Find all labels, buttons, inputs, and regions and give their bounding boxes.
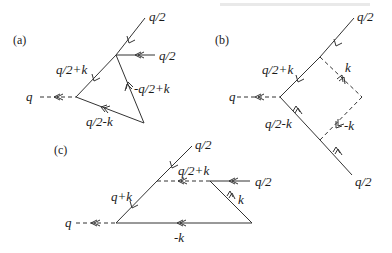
arrow-icon xyxy=(92,74,100,81)
label-q2pk-c: q/2+k xyxy=(178,163,209,178)
arrow-icon xyxy=(339,77,345,84)
label-q-b: q xyxy=(229,89,236,104)
label-q2-horizontal-c: q/2 xyxy=(255,174,272,189)
arrow-icon xyxy=(295,108,302,114)
label-q2-top-c: q/2 xyxy=(195,137,212,152)
panel-label-c: (c) xyxy=(54,143,67,157)
line-mk-b xyxy=(320,97,362,140)
label-qpk-c: q+k xyxy=(111,189,132,204)
label-q2-top-b: q/2 xyxy=(357,9,374,24)
bleed-through-text xyxy=(220,3,370,6)
panel-a: (a) q q/2 q/2 q/2+k -q/2+k q/2-k xyxy=(13,9,176,129)
label-q-c: q xyxy=(65,215,72,230)
line-k-b xyxy=(320,57,362,97)
label-q2pk-a: q/2+k xyxy=(56,62,87,77)
line-k-c xyxy=(210,181,252,223)
line-q2-bottom-b xyxy=(320,140,352,175)
label-q2-horizontal-a: q/2 xyxy=(159,48,176,63)
label-mk-b: -k xyxy=(344,118,354,133)
feynman-diagram-figure: (a) q q/2 q/2 q/2+k -q/2+k q/2-k (b) xyxy=(0,0,392,253)
label-k-b: k xyxy=(345,60,351,75)
panel-label-a: (a) xyxy=(13,33,26,47)
label-q2mk-a: q/2-k xyxy=(86,114,113,129)
panel-label-b: (b) xyxy=(215,33,229,47)
panel-c: (c) q q/2 q/2+k q/2 q+k k -k xyxy=(54,137,272,245)
label-q2pk-b: q/2+k xyxy=(262,62,293,77)
panel-b: (b) q q/2 q/2+k k -k q/2-k q/2 xyxy=(215,9,374,189)
label-q2mk-b: q/2-k xyxy=(265,116,292,131)
label-mk-c: -k xyxy=(174,230,184,245)
arrow-icon xyxy=(296,75,304,82)
label-q2-top-a: q/2 xyxy=(149,9,166,24)
label-q-a: q xyxy=(26,89,33,104)
arrow-icon xyxy=(127,36,135,43)
arrow-icon xyxy=(335,149,342,155)
line-q2-top-a xyxy=(116,18,145,55)
label-mq2pk-a: -q/2+k xyxy=(134,81,170,96)
label-k-c: k xyxy=(238,192,244,207)
label-q2-bottom-b: q/2 xyxy=(355,174,372,189)
line-q2-top-b xyxy=(320,18,354,57)
